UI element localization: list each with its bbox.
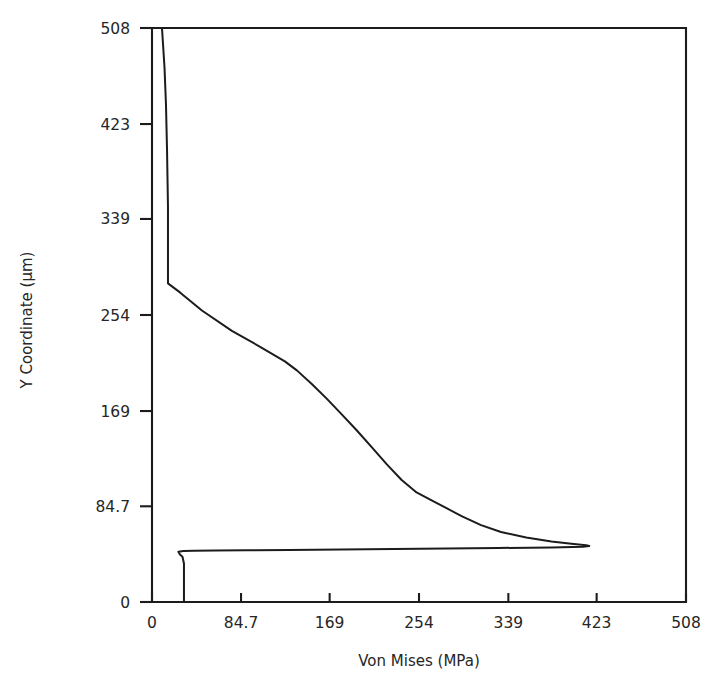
y-axis-title: Y Coordinate (μm) [18, 252, 36, 390]
x-axis-tick-labels: 084.7169254339423508 [147, 614, 701, 632]
x-tick-label: 508 [671, 614, 701, 632]
x-tick-label: 0 [147, 614, 157, 632]
x-tick-label: 169 [315, 614, 345, 632]
x-tick-label: 254 [404, 614, 434, 632]
y-axis-tick-labels: 084.7169254339423508 [95, 20, 130, 612]
data-curve-von-mises [162, 28, 589, 602]
y-tick-label: 254 [100, 307, 130, 325]
x-tick-label: 339 [494, 614, 524, 632]
x-tick-label: 84.7 [224, 614, 259, 632]
y-axis-ticks [140, 28, 152, 602]
y-tick-label: 339 [100, 210, 130, 228]
plot-frame [152, 28, 686, 602]
x-axis-ticks [152, 593, 686, 602]
y-tick-label: 169 [100, 403, 130, 421]
x-tick-label: 423 [582, 614, 612, 632]
y-tick-label: 423 [100, 116, 130, 134]
x-axis-title: Von Mises (MPa) [358, 652, 480, 670]
plot-canvas: 084.7169254339423508 084.716925433942350… [0, 0, 720, 694]
plot-frame-border [152, 28, 686, 602]
chart-figure: 084.7169254339423508 084.716925433942350… [0, 0, 720, 694]
y-tick-label: 84.7 [95, 498, 130, 516]
data-series-group [162, 28, 589, 602]
y-tick-label: 508 [100, 20, 130, 38]
y-tick-label: 0 [120, 594, 130, 612]
